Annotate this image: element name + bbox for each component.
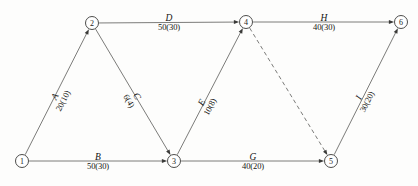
arrowhead-i (394, 28, 398, 34)
network-diagram-canvas: 123456 A20(10)B50(30)C6(4)D50(30)E10(8)G… (0, 0, 418, 186)
arrowhead-f (323, 150, 327, 155)
node-label-6: 6 (399, 18, 403, 27)
node-5[interactable]: 5 (325, 155, 338, 168)
arrowhead-b (162, 159, 167, 163)
edge-label-b: B50(30) (87, 152, 109, 171)
edges-layer (25, 22, 396, 161)
node-label-1: 1 (20, 157, 24, 166)
nodes-layer: 123456 (16, 16, 408, 168)
arrowhead-a (85, 29, 89, 35)
node-6[interactable]: 6 (395, 16, 408, 29)
arrowhead-g (319, 159, 324, 163)
edge-e (177, 31, 241, 155)
edge-duration-d: 50(30) (158, 23, 180, 32)
node-label-3: 3 (172, 157, 176, 166)
arrowhead-c (166, 150, 170, 155)
edge-label-g: G40(20) (242, 152, 264, 171)
node-label-2: 2 (90, 19, 94, 28)
edge-label-d: D50(30) (158, 13, 180, 32)
edge-label-h: H40(30) (313, 13, 335, 32)
node-label-4: 4 (244, 18, 248, 27)
node-3[interactable]: 3 (168, 155, 181, 168)
arrowhead-d (234, 20, 239, 24)
edge-duration-g: 40(20) (242, 162, 264, 171)
node-1[interactable]: 1 (16, 155, 29, 168)
edge-duration-h: 40(30) (313, 23, 335, 32)
node-label-5: 5 (329, 157, 333, 166)
node-4[interactable]: 4 (240, 16, 253, 29)
edge-duration-b: 50(30) (87, 162, 109, 171)
arrowhead-h (389, 20, 394, 24)
node-2[interactable]: 2 (86, 17, 99, 30)
arrowhead-e (239, 28, 243, 34)
edge-f (250, 28, 326, 152)
